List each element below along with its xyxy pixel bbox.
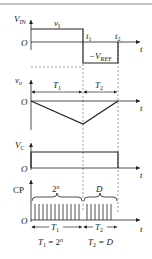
cp-pulses-t2 [87, 204, 111, 220]
brace-t2 [84, 193, 117, 201]
vc-t-axis: t [140, 170, 143, 180]
svg-text:vI: vI [54, 18, 60, 29]
svg-text:T2 = D: T2 = D [88, 237, 114, 248]
panel-vc: VC O t [15, 140, 143, 180]
panel-vin: VIN O t vI t1 t2 −VREF [14, 14, 143, 63]
svg-text:VC: VC [15, 140, 25, 151]
vo-origin: O [21, 97, 28, 107]
cp-origin: O [21, 216, 28, 226]
vin-origin: O [21, 38, 28, 48]
svg-text:T1 = 2n: T1 = 2n [38, 237, 63, 248]
svg-text:t1: t1 [86, 31, 92, 42]
panel-cp: CP O t 2n D T1 T2 T1 = 2n T2 = D [13, 180, 143, 248]
cp-pulses-t1 [35, 204, 79, 220]
brace2-label: D [95, 184, 103, 194]
cp-axis-label: CP [13, 185, 24, 195]
panel-vo: vo O t T1 T2 [15, 75, 143, 130]
svg-text:−VREF: −VREF [89, 51, 112, 62]
svg-text:T1: T1 [53, 80, 61, 91]
svg-text:T2: T2 [95, 80, 103, 91]
svg-text:VIN: VIN [14, 14, 26, 25]
svg-text:t2: t2 [115, 31, 121, 42]
dashed-guides [31, 42, 118, 212]
svg-text:2n: 2n [52, 184, 60, 194]
brace-t1 [32, 193, 82, 201]
vo-t-axis: t [140, 103, 143, 113]
cp-t-axis: t [140, 224, 143, 234]
svg-text:vo: vo [15, 75, 22, 86]
timing-diagram: VIN O t vI t1 t2 −VREF vo O t T1 T2 VC O… [0, 0, 152, 259]
vc-origin: O [21, 164, 28, 174]
vin-t-axis: t [140, 44, 143, 54]
